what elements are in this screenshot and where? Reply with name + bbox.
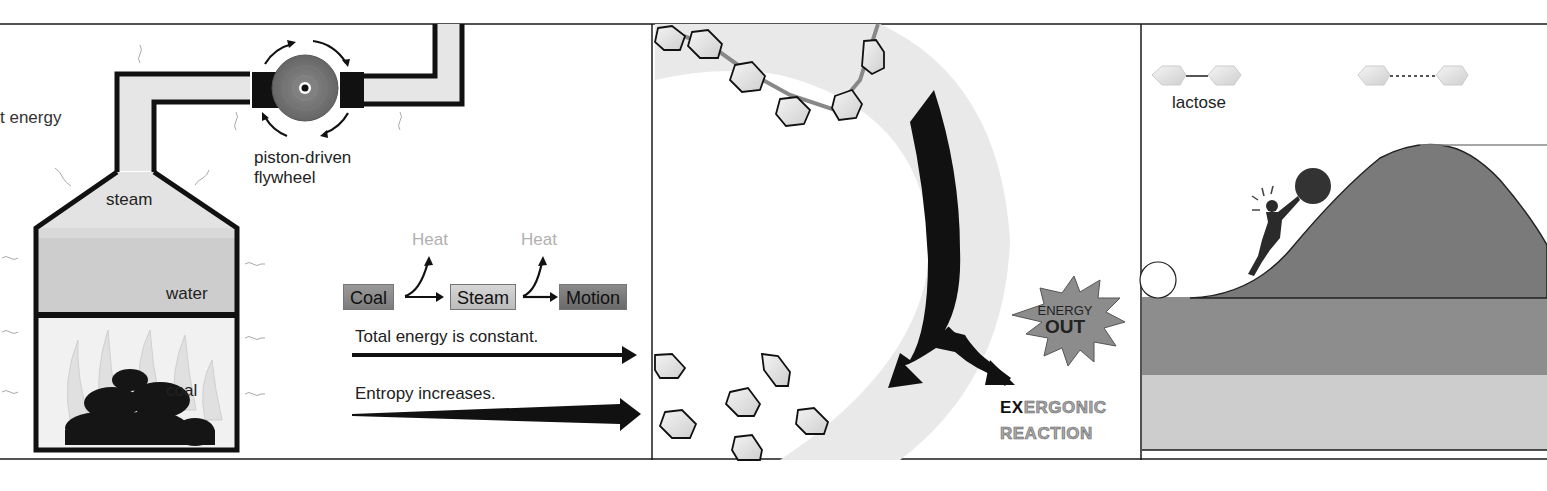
activation-hill-illustration xyxy=(1140,66,1547,450)
burst-out-label: OUT xyxy=(1030,316,1100,338)
diagram-graphics xyxy=(0,0,1547,491)
lactose-label: lactose xyxy=(1172,93,1226,113)
flow-node-coal: Coal xyxy=(343,284,394,310)
boulder-icon xyxy=(1295,168,1331,204)
reaction-suffix: ERGONIC xyxy=(1024,398,1107,417)
reaction-title-line2: REACTION xyxy=(1000,424,1093,444)
water-label: water xyxy=(166,284,208,304)
reaction-title-line1: EXERGONIC xyxy=(1000,398,1107,418)
statement-total-energy: Total energy is constant. xyxy=(355,327,538,347)
exergonic-illustration xyxy=(655,24,1125,460)
heat-energy-label: t energy xyxy=(0,108,61,128)
flow-node-steam: Steam xyxy=(450,284,516,310)
flow-node-motion: Motion xyxy=(559,284,627,310)
steam-label: steam xyxy=(106,190,152,210)
flywheel-label-line2: flywheel xyxy=(254,168,315,188)
flywheel-label-line1: piston-driven xyxy=(254,148,351,168)
reaction-prefix: EX xyxy=(1000,398,1024,417)
coal-label: coal xyxy=(166,381,197,401)
total-energy-arrow xyxy=(352,346,637,364)
statement-entropy: Entropy increases. xyxy=(355,384,496,404)
heat-label-1: Heat xyxy=(412,230,448,250)
heat-label-2: Heat xyxy=(521,230,557,250)
